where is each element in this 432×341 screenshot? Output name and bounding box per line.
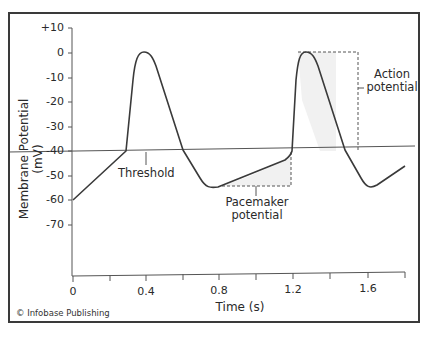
publisher-credit: © Infobase Publishing [16, 308, 110, 318]
y-axis-label: Membrane Potential (mV) [17, 84, 45, 234]
xtick-label: 0.8 [199, 284, 239, 297]
action-annotation-line2: potential [364, 81, 420, 94]
ytick-label: +10 [24, 21, 64, 34]
x-axis [72, 272, 405, 276]
action-potential-annotation: Action potential [364, 68, 420, 94]
x-axis-label: Time (s) [200, 300, 280, 314]
xtick-label: 0.4 [126, 285, 166, 298]
pacemaker-annotation-line2: potential [225, 209, 289, 222]
y-ticks [68, 28, 72, 225]
xtick-label: 0 [53, 285, 93, 298]
pacemaker-annotation: Pacemaker potential [225, 196, 289, 222]
action-potential-region-shade [298, 52, 336, 151]
threshold-line [8, 146, 415, 152]
threshold-annotation: Threshold [118, 167, 175, 180]
ytick-label: 0 [24, 46, 64, 59]
xtick-label: 1.2 [273, 283, 313, 296]
ytick-label: -10 [24, 71, 64, 84]
xtick-label: 1.6 [348, 282, 388, 295]
